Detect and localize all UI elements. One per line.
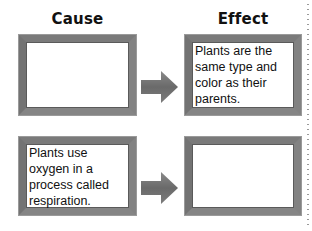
cause-column-heading: Cause — [19, 10, 136, 28]
right-arrow-icon — [141, 71, 179, 103]
cause-box-2[interactable]: Plants use oxygen in a process called re… — [19, 137, 136, 215]
dotted-divider — [307, 2, 309, 229]
effect-box-1-text: Plants are the same type and color as th… — [195, 43, 292, 107]
cause-box-1[interactable] — [19, 35, 136, 115]
effect-column-heading: Effect — [185, 10, 301, 28]
effect-box-2[interactable] — [185, 137, 301, 215]
effect-box-1[interactable]: Plants are the same type and color as th… — [185, 35, 301, 115]
right-arrow-icon — [141, 172, 179, 204]
cause-box-2-text: Plants use oxygen in a process called re… — [29, 145, 127, 209]
